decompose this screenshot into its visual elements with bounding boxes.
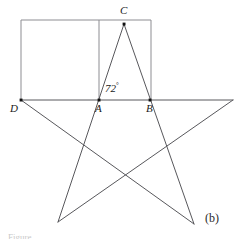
point-label-b: B bbox=[146, 103, 153, 114]
point-markers bbox=[20, 23, 152, 102]
chord-left-bottomright bbox=[21, 100, 194, 224]
degree-symbol: ° bbox=[116, 81, 119, 89]
chord-apex-bottomleft bbox=[58, 24, 124, 222]
angle-label-72-degrees: 72° bbox=[105, 82, 119, 94]
geometry-figure: A B C D 72° (b) Figure bbox=[0, 0, 241, 239]
point-marker-c bbox=[123, 23, 126, 26]
chord-right-bottomleft bbox=[58, 100, 233, 222]
pentagram-lines bbox=[21, 24, 233, 224]
rectangle-overlay bbox=[21, 20, 151, 100]
chord-apex-bottomright bbox=[124, 24, 194, 224]
angle-value: 72 bbox=[105, 82, 116, 94]
point-label-a: A bbox=[95, 103, 102, 114]
rectangle-outline bbox=[21, 20, 151, 100]
point-label-d: D bbox=[10, 103, 18, 114]
figure-canvas bbox=[0, 0, 241, 239]
panel-label: (b) bbox=[205, 212, 219, 224]
caption-fragment: Figure bbox=[8, 232, 128, 239]
point-marker-d bbox=[20, 99, 23, 102]
point-label-c: C bbox=[120, 5, 127, 16]
